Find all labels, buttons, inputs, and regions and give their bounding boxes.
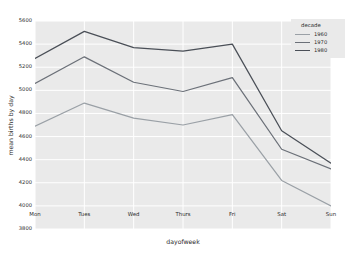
data-series-group	[35, 21, 331, 229]
y-tick-label: 4000	[0, 203, 32, 208]
series-line-1960	[35, 103, 331, 206]
legend-label: 1960	[314, 32, 327, 37]
plot-area	[35, 21, 331, 229]
x-tick-label: Sun	[308, 212, 351, 217]
y-tick-label: 4200	[0, 180, 32, 185]
legend-item-1960: 1960	[295, 31, 342, 39]
y-tick-label: 4800	[0, 110, 32, 115]
x-tick-label: Sat	[259, 212, 305, 217]
line-chart-figure: mean births by day 380040004200440046004…	[0, 0, 351, 259]
legend-label: 1970	[314, 40, 327, 45]
legend-swatch-icon	[295, 42, 310, 43]
legend-entries: 196019701980	[295, 31, 342, 55]
series-line-1980	[35, 31, 331, 163]
legend-item-1970: 1970	[295, 39, 342, 47]
y-tick-label: 4600	[0, 134, 32, 139]
x-axis-label: dayofweek	[35, 238, 331, 245]
y-axis-label-text: mean births by day	[7, 95, 14, 155]
x-tick-label: Wed	[111, 212, 157, 217]
series-line-1970	[35, 57, 331, 169]
y-tick-label: 4400	[0, 157, 32, 162]
x-tick-label: Tues	[61, 212, 107, 217]
y-tick-label: 5600	[0, 18, 32, 23]
x-tick-label: Mon	[12, 212, 58, 217]
x-tick-label: Fri	[209, 212, 255, 217]
legend: decade 196019701980	[291, 19, 345, 58]
legend-item-1980: 1980	[295, 47, 342, 55]
y-axis-label: mean births by day	[5, 21, 15, 229]
legend-swatch-icon	[295, 34, 310, 35]
x-tick-label: Thurs	[160, 212, 206, 217]
legend-swatch-icon	[295, 50, 310, 51]
y-tick-label: 3800	[0, 226, 32, 231]
y-tick-label: 5200	[0, 64, 32, 69]
legend-label: 1980	[314, 48, 327, 53]
legend-title: decade	[301, 22, 342, 28]
y-tick-label: 5000	[0, 87, 32, 92]
y-tick-label: 5400	[0, 41, 32, 46]
